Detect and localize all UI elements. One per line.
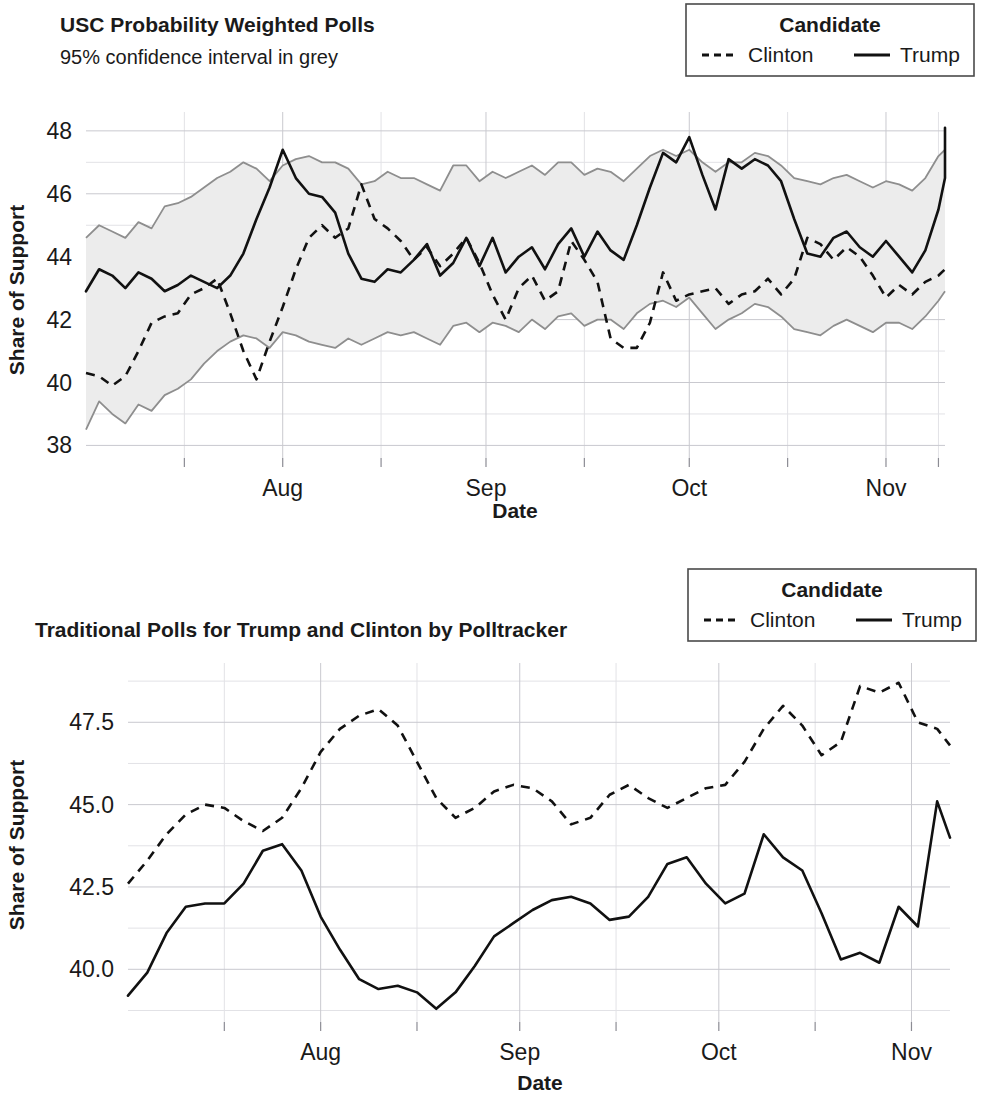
y-tick-label: 40.0 bbox=[69, 956, 114, 982]
x-tick-label: Oct bbox=[701, 1039, 737, 1065]
series-line-clinton bbox=[128, 683, 950, 884]
y-tick-label: 48 bbox=[46, 118, 72, 144]
chart-panel-usc: 384042444648AugSepOctNovDateShare of Sup… bbox=[0, 0, 985, 545]
x-tick-label: Nov bbox=[866, 475, 907, 501]
legend-title: Candidate bbox=[779, 13, 881, 36]
legend-label-clinton: Clinton bbox=[750, 608, 815, 631]
y-axis-label: Share of Support bbox=[5, 205, 28, 375]
x-tick-label: Oct bbox=[671, 475, 707, 501]
gridlines bbox=[128, 663, 950, 1022]
x-tick-label: Sep bbox=[466, 475, 507, 501]
legend-title: Candidate bbox=[781, 578, 883, 601]
chart-subtitle: 95% confidence interval in grey bbox=[60, 46, 338, 68]
y-tick-label: 42 bbox=[46, 307, 72, 333]
y-tick-label: 44 bbox=[46, 244, 72, 270]
x-tick-label: Sep bbox=[499, 1039, 540, 1065]
legend-label-trump: Trump bbox=[900, 43, 960, 66]
y-tick-label: 47.5 bbox=[69, 709, 114, 735]
y-tick-label: 45.0 bbox=[69, 792, 114, 818]
legend-label-clinton: Clinton bbox=[748, 43, 813, 66]
polltracker-chart-svg: 40.042.545.047.5AugSepOctNovDateShare of… bbox=[0, 545, 985, 1107]
x-tick-label: Nov bbox=[891, 1039, 932, 1065]
legend: CandidateClintonTrump bbox=[686, 4, 974, 76]
legend: CandidateClintonTrump bbox=[688, 569, 976, 641]
y-tick-label: 38 bbox=[46, 432, 72, 458]
chart-panel-polltracker: 40.042.545.047.5AugSepOctNovDateShare of… bbox=[0, 545, 985, 1107]
legend-label-trump: Trump bbox=[902, 608, 962, 631]
series-line-trump bbox=[128, 801, 950, 1009]
x-tick-label: Aug bbox=[300, 1039, 341, 1065]
y-axis-label: Share of Support bbox=[5, 760, 28, 930]
figure-root: 384042444648AugSepOctNovDateShare of Sup… bbox=[0, 0, 985, 1107]
usc-chart-svg: 384042444648AugSepOctNovDateShare of Sup… bbox=[0, 0, 985, 545]
x-axis-label: Date bbox=[517, 1071, 563, 1094]
y-tick-label: 40 bbox=[46, 370, 72, 396]
y-tick-label: 46 bbox=[46, 181, 72, 207]
x-axis-label: Date bbox=[492, 499, 538, 522]
y-tick-label: 42.5 bbox=[69, 874, 114, 900]
confidence-band-fill bbox=[86, 150, 945, 430]
chart-title: USC Probability Weighted Polls bbox=[60, 13, 375, 36]
chart-title: Traditional Polls for Trump and Clinton … bbox=[35, 618, 567, 641]
x-tick-label: Aug bbox=[262, 475, 303, 501]
